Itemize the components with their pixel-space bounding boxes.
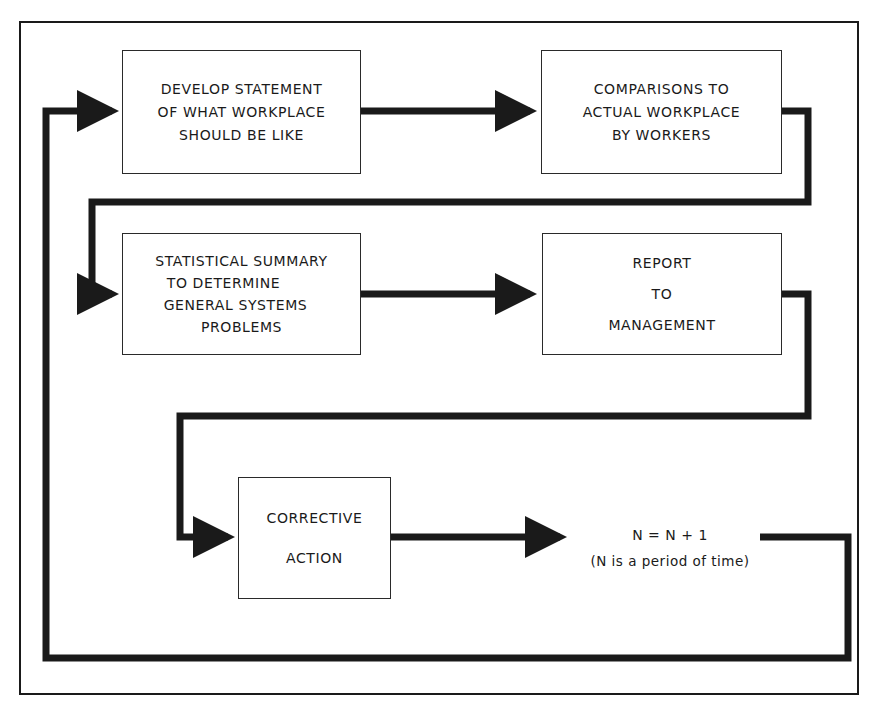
step-label-line: PROBLEMS	[201, 316, 282, 338]
step-label-line: BY WORKERS	[612, 124, 711, 147]
step-comparisons: COMPARISONS TO ACTUAL WORKPLACE BY WORKE…	[541, 50, 782, 174]
step-corrective-action: CORRECTIVE ACTION	[238, 477, 391, 599]
step-report-to-management: REPORT TO MANAGEMENT	[542, 233, 782, 355]
step-label-line: GENERAL SYSTEMS	[164, 294, 308, 316]
step-label-line: MANAGEMENT	[608, 310, 715, 341]
step-label-line: ACTION	[286, 538, 343, 578]
step-label-line: ACTUAL WORKPLACE	[583, 101, 741, 124]
increment-equation: N = N + 1	[570, 527, 770, 543]
step-label-line: TO	[652, 279, 673, 310]
step-develop-statement: DEVELOP STATEMENT OF WHAT WORKPLACE SHOU…	[122, 50, 361, 174]
arrow-increment-to-step1	[46, 111, 848, 658]
step-label-line: DEVELOP STATEMENT	[161, 78, 323, 101]
step-label-line: REPORT	[633, 248, 692, 279]
step-label-line: OF WHAT WORKPLACE	[158, 101, 326, 124]
step-label-line: CORRECTIVE	[267, 498, 363, 538]
step-label-line: SHOULD BE LIKE	[179, 124, 304, 147]
increment-caption: (N is a period of time)	[570, 553, 770, 569]
step-statistical-summary: STATISTICAL SUMMARY TO DETERMINE GENERAL…	[122, 233, 361, 355]
step-label-line: COMPARISONS TO	[594, 78, 730, 101]
step-label-line: STATISTICAL SUMMARY	[155, 250, 327, 272]
increment-note: N = N + 1 (N is a period of time)	[570, 527, 770, 569]
step-label-line: TO DETERMINE	[167, 272, 281, 294]
